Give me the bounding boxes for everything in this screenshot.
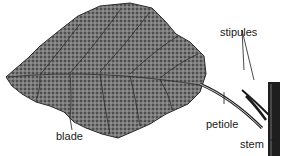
label-stipules: stipules — [220, 26, 258, 38]
label-stem: stem — [240, 138, 264, 150]
stem — [268, 82, 280, 156]
label-blade: blade — [56, 130, 83, 142]
label-petiole: petiole — [206, 118, 238, 130]
leaf-diagram: blade stipules petiole stem — [0, 0, 294, 156]
leaf-blade — [6, 3, 206, 138]
